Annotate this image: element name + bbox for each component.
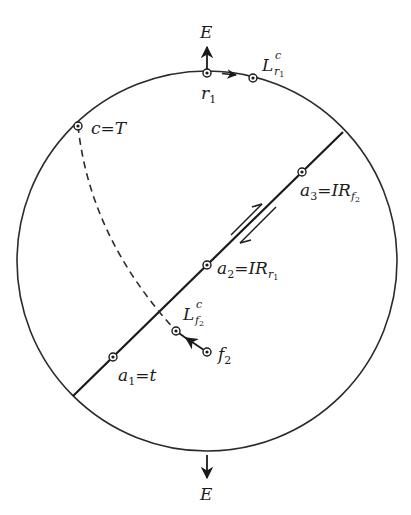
label-a3-equals-ir-f2: a3=IRf2 <box>300 182 360 199</box>
label-f2: f2 <box>218 346 231 363</box>
point-a2 <box>203 261 211 269</box>
label-e-bottom: E <box>200 486 212 503</box>
point-a1 <box>109 353 117 361</box>
point-r1 <box>203 69 211 77</box>
point-l-r1 <box>249 74 257 82</box>
point-c <box>74 122 82 130</box>
point-l-f2 <box>172 327 180 335</box>
label-r1: r1 <box>201 85 216 102</box>
label-a1-equals-t: a1=t <box>118 367 156 384</box>
circle-direction-arrow-icon <box>222 74 236 76</box>
point-a3 <box>298 168 306 176</box>
label-l-c-r1: L c r1 <box>262 57 273 74</box>
label-c-equals-t: c=T <box>91 120 126 137</box>
label-l-c-f2: L c f2 <box>183 306 194 323</box>
point-f2 <box>203 348 211 356</box>
label-a2-equals-ir-r1: a2=IRr1 <box>217 260 278 277</box>
label-e-top: E <box>200 24 212 41</box>
shear-sense-icon <box>231 204 276 243</box>
dashed-path <box>78 126 176 331</box>
fault-diagram <box>0 0 411 515</box>
